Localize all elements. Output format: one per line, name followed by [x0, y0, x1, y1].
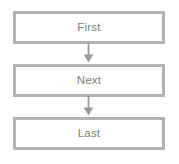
flowchart-node-last[interactable]: Last	[13, 117, 165, 150]
arrow-down-icon	[83, 96, 94, 116]
arrow-down-icon	[83, 43, 94, 63]
flowchart-node-label: First	[77, 22, 100, 34]
flowchart-node-first[interactable]: First	[13, 11, 165, 44]
flowchart-node-label: Next	[77, 75, 101, 87]
flowchart-node-next[interactable]: Next	[13, 64, 165, 97]
flowchart-node-label: Last	[78, 128, 101, 140]
flowchart-diagram: First Next Last	[0, 0, 179, 164]
